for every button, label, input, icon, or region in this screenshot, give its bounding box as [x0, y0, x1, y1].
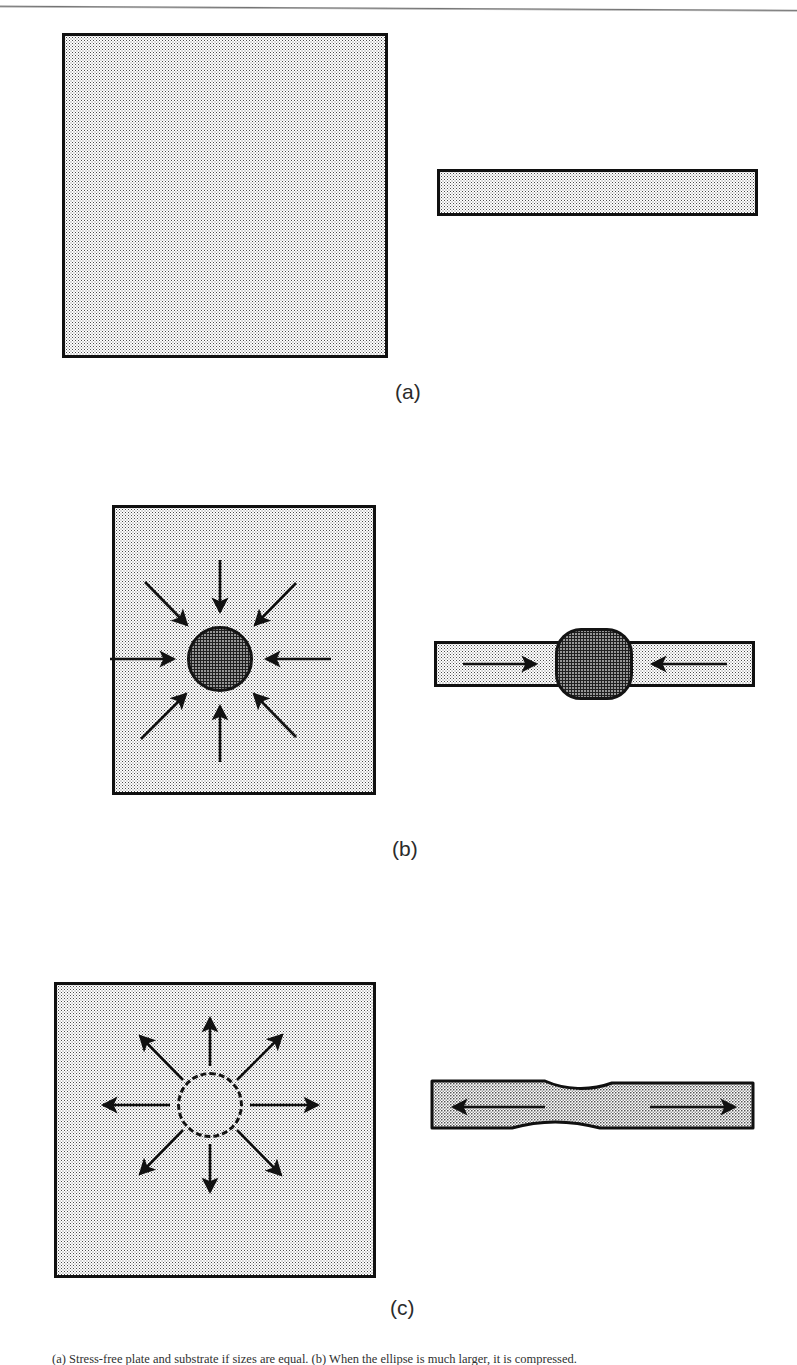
stress-free-plate-plan [62, 33, 388, 358]
void-circle [177, 1072, 243, 1138]
panel-label-c: (c) [390, 1297, 415, 1318]
panel-label-a: (a) [395, 381, 421, 402]
inclusion-bulge-edge [555, 628, 633, 700]
panel-label-b: (b) [392, 838, 418, 859]
scan-artifact-rule [0, 5, 797, 12]
inclusion-circle [187, 626, 253, 692]
stress-free-plate-edge [437, 169, 758, 216]
figure-caption: (a) Stress-free plate and substrate if s… [52, 1352, 772, 1365]
figure-root: (a) [0, 0, 797, 1365]
